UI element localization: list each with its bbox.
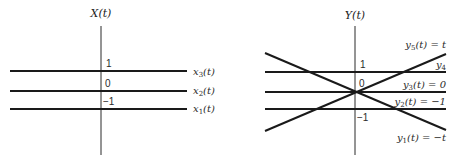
left-tick-neg1: −1: [103, 96, 115, 107]
label-y3: y3(t) = 0: [402, 79, 447, 92]
label-x1: x1(t): [193, 103, 215, 116]
right-tick-0: 0: [359, 78, 365, 89]
label-x2: x2(t): [193, 85, 215, 98]
label-y1: y1(t) = −t: [396, 132, 447, 145]
label-y5: y5(t) = t: [404, 39, 447, 52]
label-y4: y4: [435, 59, 447, 72]
right-plot: Y(t) 1 0 −1 y5(t) = t y4 y3(t) = 0 y2(t)…: [265, 9, 447, 155]
left-tick-0: 0: [105, 78, 111, 89]
label-y2: y2(t) = −1: [394, 96, 446, 109]
left-plot: X(t) 1 0 −1 x3(t) x2(t) x1(t): [10, 7, 215, 155]
right-plot-title: Y(t): [345, 9, 365, 22]
right-tick-1: 1: [360, 59, 366, 70]
left-tick-1: 1: [106, 58, 112, 69]
label-x3: x3(t): [193, 66, 215, 79]
random-process-diagram: X(t) 1 0 −1 x3(t) x2(t) x1(t) Y(t) 1 0 −…: [0, 0, 454, 161]
left-plot-title: X(t): [90, 7, 112, 20]
right-tick-neg1: −1: [357, 112, 369, 123]
